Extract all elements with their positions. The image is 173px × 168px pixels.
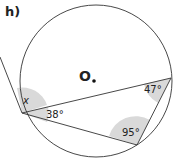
tangent-line	[0, 57, 22, 113]
angle-label-47: 47°	[144, 84, 162, 95]
angle-label-95: 95°	[122, 127, 140, 138]
circle	[20, 5, 172, 157]
angle-label-unknown: x	[22, 95, 29, 106]
angle-label-38: 38°	[46, 109, 64, 120]
problem-label: h)	[5, 4, 20, 19]
circle-diagram: h) O x 38° 47° 95°	[0, 0, 173, 168]
center-label: O	[79, 68, 91, 84]
center-dot	[92, 79, 96, 83]
